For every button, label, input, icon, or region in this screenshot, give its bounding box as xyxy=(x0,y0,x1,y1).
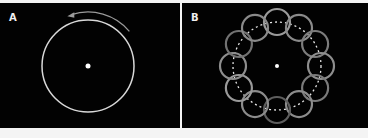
arrowhead-icon xyxy=(67,12,74,18)
panel-a-diagram xyxy=(0,3,180,128)
center-point xyxy=(86,64,91,69)
figure: A B xyxy=(0,0,368,138)
panel-b-diagram xyxy=(182,3,368,128)
panel-a: A xyxy=(0,3,180,128)
small-circle xyxy=(302,75,328,101)
small-circle xyxy=(242,15,268,41)
small-circle xyxy=(242,91,268,117)
panel-b: B xyxy=(182,3,368,128)
center-point xyxy=(275,64,279,68)
